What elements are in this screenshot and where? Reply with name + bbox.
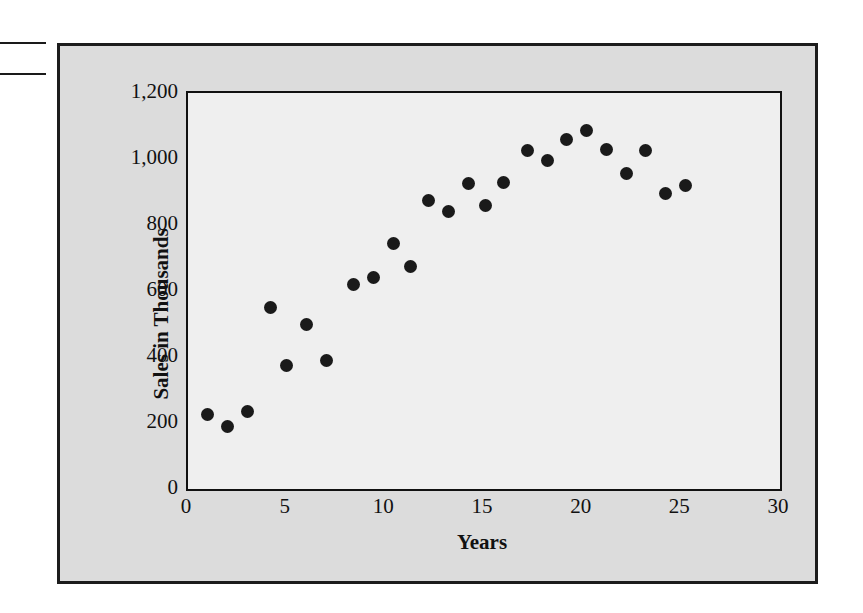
- page-margin-rule-bottom: [0, 73, 46, 75]
- x-axis-tick-label: 20: [570, 494, 591, 519]
- scatter-data-point: [264, 301, 277, 314]
- scatter-data-point: [404, 260, 417, 273]
- x-axis-tick-label: 15: [472, 494, 493, 519]
- figure-container: Sales in Thousands 02004006008001,0001,2…: [57, 43, 818, 584]
- y-axis-tick-label: 0: [168, 475, 179, 500]
- scatter-data-point: [521, 144, 534, 157]
- scatter-data-point: [560, 133, 573, 146]
- scatter-data-point: [387, 237, 400, 250]
- y-axis-tick-label: 800: [147, 211, 179, 236]
- scatter-data-point: [347, 278, 360, 291]
- x-axis-title: Years: [186, 530, 778, 555]
- scatter-plot-area: [188, 93, 780, 489]
- y-axis-tick-labels: 02004006008001,0001,200: [60, 89, 178, 533]
- scatter-data-point: [280, 359, 293, 372]
- scatter-data-point: [241, 405, 254, 418]
- scatter-data-point: [659, 187, 672, 200]
- y-axis-tick-label: 1,200: [131, 79, 178, 104]
- scatter-data-point: [422, 194, 435, 207]
- scatter-data-point: [639, 144, 652, 157]
- scatter-data-point: [462, 177, 475, 190]
- x-axis-tick-label: 10: [373, 494, 394, 519]
- page-margin-rule-top: [0, 42, 46, 44]
- x-axis-tick-label: 0: [181, 494, 192, 519]
- y-axis-tick-label: 400: [147, 343, 179, 368]
- scatter-data-point: [479, 199, 492, 212]
- scatter-data-point: [497, 176, 510, 189]
- scatter-data-point: [541, 154, 554, 167]
- scatter-data-point: [201, 408, 214, 421]
- scatter-data-point: [580, 124, 593, 137]
- scatter-data-point: [620, 167, 633, 180]
- scatter-data-point: [221, 420, 234, 433]
- y-axis-tick-label: 200: [147, 409, 179, 434]
- scatter-data-point: [442, 205, 455, 218]
- x-axis-tick-label: 5: [279, 494, 290, 519]
- plot-frame: [186, 91, 782, 491]
- y-axis-tick-label: 600: [147, 277, 179, 302]
- x-axis-tick-label: 25: [669, 494, 690, 519]
- scatter-data-point: [367, 271, 380, 284]
- scatter-data-point: [679, 179, 692, 192]
- scatter-data-point: [300, 318, 313, 331]
- x-axis-tick-labels: 051015202530: [186, 494, 778, 526]
- y-axis-tick-label: 1,000: [131, 145, 178, 170]
- scatter-data-point: [600, 143, 613, 156]
- scatter-data-point: [320, 354, 333, 367]
- x-axis-tick-label: 30: [768, 494, 789, 519]
